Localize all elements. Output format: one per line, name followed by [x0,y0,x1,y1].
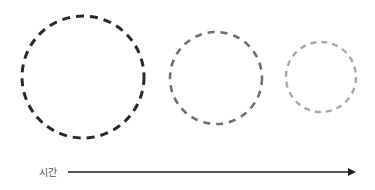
large-dashed-circle [22,16,144,138]
arrowhead-icon [348,168,356,176]
small-dashed-circle [286,42,356,112]
medium-dashed-circle [170,32,262,124]
time-axis-label: 시간 [39,164,57,179]
diagram-canvas [0,0,375,190]
